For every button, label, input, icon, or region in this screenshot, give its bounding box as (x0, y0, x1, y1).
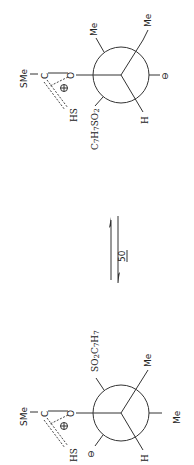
bottom-bond-to-h (121, 413, 143, 450)
bottom-bond-to-minus (95, 435, 103, 446)
top-newman-projection: Me Me ⊖ H C7H7SO2 O C SMe HS (19, 13, 170, 150)
top-bond-to-c7h7so2 (95, 97, 103, 106)
bottom-newman-projection: SO2C7H7 Me Me H ⊖ O C SMe HS (19, 330, 182, 462)
top-bond-to-me1 (96, 38, 104, 52)
bottom-me2-label: Me (172, 410, 182, 424)
compound-number: 50 (117, 250, 127, 262)
top-bond-to-me2 (121, 40, 143, 75)
diagram-canvas: Me Me ⊖ H C7H7SO2 O C SMe HS 50 (0, 0, 194, 465)
bottom-c-s-partial-bond-2 (44, 420, 65, 448)
bottom-h-label: H (140, 454, 150, 462)
bottom-sme-label: SMe (19, 407, 29, 426)
top-c-s-partial-bond-2 (44, 82, 65, 110)
compound-number-label: 50 (117, 250, 127, 262)
top-sme-label: SMe (19, 69, 29, 88)
top-me1-label: Me (89, 22, 99, 36)
top-c7h7so2-label: C7H7SO2 (90, 108, 101, 150)
top-hs-label: HS (69, 108, 79, 122)
top-carbon-label: C (40, 73, 50, 79)
top-bond-to-h (121, 75, 143, 112)
bottom-minus-charge: ⊖ (86, 450, 96, 458)
bottom-me1-label: Me (143, 353, 153, 367)
bottom-bond-to-me1 (121, 378, 143, 413)
equilibrium-arrows (109, 216, 120, 283)
top-h-label: H (140, 116, 150, 124)
bottom-carbon-label: C (40, 411, 50, 417)
top-minus-charge: ⊖ (160, 72, 170, 80)
bottom-so2c7h7-label: SO2C7H7 (90, 330, 101, 372)
bottom-bond-to-so2c7h7 (96, 378, 104, 390)
bottom-hs-label: HS (69, 448, 79, 462)
top-me2-label: Me (143, 13, 153, 27)
